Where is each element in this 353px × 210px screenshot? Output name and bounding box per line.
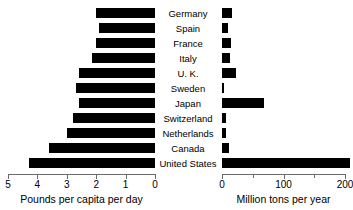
bar-million-tons (222, 23, 228, 33)
country-label: Germany (168, 9, 207, 19)
right-bar-track (222, 141, 345, 156)
axis-tick (314, 174, 315, 178)
chart-row: Canada (0, 141, 350, 156)
axis-tick-label: 0 (219, 179, 225, 190)
right-bar-track (222, 111, 345, 126)
bar-million-tons (222, 128, 226, 138)
bar-pounds-per-capita (96, 38, 155, 48)
category-label-cell: Sweden (157, 81, 219, 96)
country-label: Sweden (171, 84, 205, 94)
axis-tick-label: 3 (64, 179, 70, 190)
chart-row: Spain (0, 21, 350, 36)
right-bar-track (222, 6, 345, 21)
chart-row: Germany (0, 6, 350, 21)
chart-row: Netherlands (0, 126, 350, 141)
chart-row: Italy (0, 51, 350, 66)
right-bar-track (222, 51, 345, 66)
right-bar-track (222, 156, 345, 171)
bar-pounds-per-capita (49, 143, 155, 153)
axis-tick-label: 5 (5, 179, 11, 190)
left-bar-track (8, 96, 155, 111)
left-bar-track (8, 66, 155, 81)
bar-pounds-per-capita (79, 68, 155, 78)
left-axis-title: Pounds per capita per day (8, 193, 155, 205)
axis-tick-label: 0 (152, 179, 158, 190)
category-label-cell: U. K. (157, 66, 219, 81)
category-label-cell: Netherlands (157, 126, 219, 141)
left-axis-line (8, 174, 155, 175)
left-bar-track (8, 36, 155, 51)
country-label: Switzerland (163, 114, 212, 124)
right-bar-track (222, 96, 345, 111)
left-bar-track (8, 51, 155, 66)
left-bar-track (8, 156, 155, 171)
axis-tick (253, 174, 254, 178)
category-label-cell: United States (157, 156, 219, 171)
bar-pounds-per-capita (79, 98, 155, 108)
category-label-cell: Switzerland (157, 111, 219, 126)
right-bar-track (222, 126, 345, 141)
bar-pounds-per-capita (29, 158, 155, 168)
category-label-cell: Canada (157, 141, 219, 156)
chart-row: Sweden (0, 81, 350, 96)
category-label-cell: Japan (157, 96, 219, 111)
left-axis: 543210 Pounds per capita per day (8, 174, 155, 208)
category-label-cell: Spain (157, 21, 219, 36)
axis-tick-label: 200 (337, 179, 353, 190)
chart-row: Japan (0, 96, 350, 111)
bar-pounds-per-capita (92, 53, 155, 63)
bar-million-tons (222, 98, 264, 108)
left-bar-track (8, 81, 155, 96)
axis-tick-label: 4 (35, 179, 41, 190)
country-label: Canada (171, 144, 204, 154)
bar-pounds-per-capita (99, 23, 155, 33)
bar-pounds-per-capita (96, 8, 155, 18)
axis-tick-label: 2 (93, 179, 99, 190)
scan-edge-artifact (0, 0, 350, 2)
bar-pounds-per-capita (67, 128, 155, 138)
bar-million-tons (222, 68, 236, 78)
chart-row: Switzerland (0, 111, 350, 126)
left-bar-track (8, 6, 155, 21)
country-label: Italy (179, 54, 196, 64)
left-bar-track (8, 21, 155, 36)
chart-row: France (0, 36, 350, 51)
right-bar-track (222, 36, 345, 51)
bar-pounds-per-capita (73, 113, 155, 123)
bar-million-tons (222, 8, 232, 18)
chart-plot-rows: GermanySpainFranceItalyU. K.SwedenJapanS… (0, 6, 350, 171)
left-bar-track (8, 126, 155, 141)
category-label-cell: Italy (157, 51, 219, 66)
bar-pounds-per-capita (76, 83, 155, 93)
right-axis: 0100200 Million tons per year (222, 174, 345, 208)
right-bar-track (222, 66, 345, 81)
right-bar-track (222, 21, 345, 36)
axis-tick-label: 1 (123, 179, 129, 190)
category-label-cell: Germany (157, 6, 219, 21)
bar-million-tons (222, 38, 231, 48)
bar-million-tons (222, 143, 229, 153)
axis-tick-label: 100 (275, 179, 292, 190)
left-bar-track (8, 141, 155, 156)
bar-million-tons (222, 158, 350, 168)
right-bar-track (222, 81, 345, 96)
bar-million-tons (222, 53, 230, 63)
left-bar-track (8, 111, 155, 126)
country-label: U. K. (177, 69, 198, 79)
country-label: France (173, 39, 203, 49)
country-label: Netherlands (162, 129, 213, 139)
country-label: Japan (175, 99, 201, 109)
country-label: United States (159, 159, 216, 169)
country-label: Spain (176, 24, 200, 34)
bar-million-tons (222, 113, 226, 123)
bar-million-tons (222, 83, 224, 93)
right-axis-title: Million tons per year (222, 193, 345, 205)
chart-row: United States (0, 156, 350, 171)
chart-row: U. K. (0, 66, 350, 81)
category-label-cell: France (157, 36, 219, 51)
